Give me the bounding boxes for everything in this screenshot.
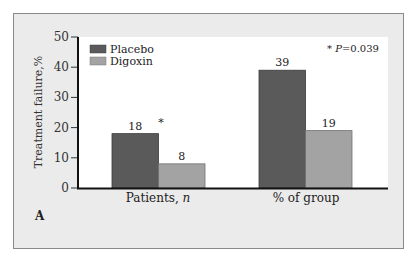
p-value-star: *	[327, 43, 335, 54]
value-label-placebo-0: 18	[128, 120, 142, 133]
y-axis-title: Treatment failure,%	[32, 56, 45, 169]
category-label-percent-group: % of group	[273, 191, 340, 205]
value-label-digoxin-1: 19	[322, 117, 336, 130]
value-label-placebo-1: 39	[275, 56, 289, 69]
category-label-patients: Patients, n	[126, 191, 191, 205]
y-tick-label-40: 40	[54, 60, 69, 74]
p-value-note: * P=0.039	[327, 43, 379, 54]
significance-marker: *	[158, 116, 164, 129]
y-tick-label-0: 0	[61, 181, 69, 195]
legend-swatch-placebo	[90, 45, 106, 53]
y-tick-label-20: 20	[54, 121, 69, 135]
bar-digoxin-1	[306, 131, 353, 188]
panel-label: A	[34, 209, 45, 223]
y-tick-label-30: 30	[54, 90, 69, 104]
legend-swatch-digoxin	[90, 57, 106, 65]
bar-placebo-0	[112, 134, 159, 188]
bar-digoxin-0	[159, 164, 206, 188]
y-tick-label-10: 10	[54, 151, 69, 165]
bar-placebo-1	[259, 70, 306, 188]
y-tick-label-50: 50	[54, 30, 69, 44]
category-label-patients-n: n	[183, 191, 191, 205]
legend-label-digoxin: Digoxin	[110, 55, 153, 68]
p-value-rest: =0.039	[342, 43, 379, 54]
category-label-patients-text: Patients,	[126, 191, 183, 205]
value-label-digoxin-0: 8	[178, 150, 185, 163]
bar-chart: 1883919 01020304050 Treatment failure,% …	[0, 0, 416, 257]
